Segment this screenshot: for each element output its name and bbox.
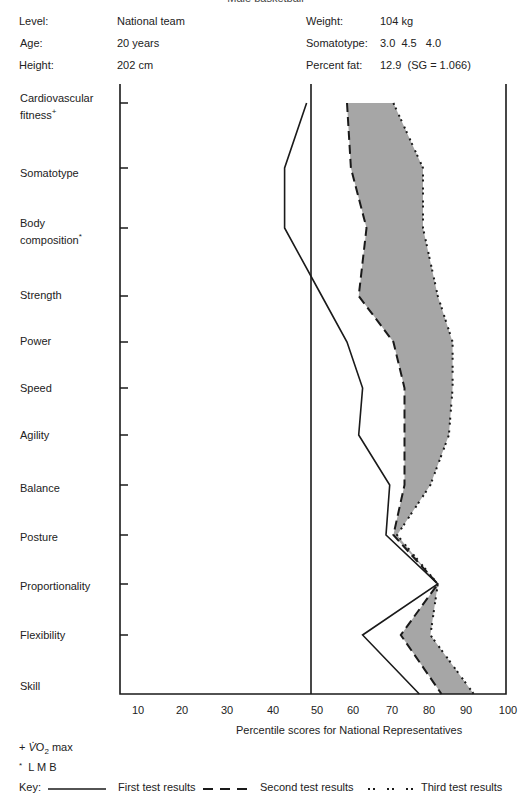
shaded-band	[347, 103, 474, 694]
legend-dotted-line	[366, 786, 416, 792]
x-tick-label: 40	[267, 704, 279, 716]
legend-third: Third test results	[421, 781, 502, 793]
x-tick-label: 30	[221, 704, 233, 716]
x-tick-label: 50	[311, 704, 323, 716]
x-axis-label: Percentile scores for National Represent…	[236, 724, 462, 736]
legend-first: First test results	[118, 781, 196, 793]
legend-key-label: Key:	[19, 781, 41, 793]
vo2-v: V.	[29, 741, 36, 753]
legend-solid-line	[48, 786, 108, 792]
profile-chart	[0, 0, 531, 806]
legend-dashed-line	[203, 786, 255, 792]
x-tick-label: 100	[499, 704, 517, 716]
x-tick-label: 90	[460, 704, 472, 716]
x-tick-label: 10	[132, 704, 144, 716]
legend-second: Second test results	[260, 781, 354, 793]
x-tick-label: 60	[347, 704, 359, 716]
x-tick-label: 20	[176, 704, 188, 716]
x-tick-label: 70	[386, 704, 398, 716]
footnote-vo2max: + V.O2 max	[19, 741, 73, 756]
footnote-lmb: * L M B	[19, 761, 57, 773]
plus-mark: +	[19, 741, 25, 753]
x-tick-label: 80	[423, 704, 435, 716]
